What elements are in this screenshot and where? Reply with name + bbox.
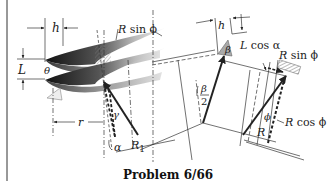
- label-R: R: [284, 116, 293, 129]
- force-vectors-left: [104, 82, 138, 137]
- phi-leader: [277, 120, 284, 123]
- label-L-cos-alpha: L cos α: [239, 39, 281, 52]
- beta-diagram: [140, 14, 304, 160]
- label-beta: β: [224, 44, 231, 55]
- label-sin-phi: sin ϕ: [287, 49, 318, 62]
- screw-thread-diagram: h L θ R sin ϕ γ r α R1: [0, 0, 335, 181]
- label-R1-main: R: [130, 139, 139, 152]
- label-R-sin-phi-left: R sin ϕ: [117, 23, 158, 36]
- label-gamma: γ: [113, 109, 119, 120]
- label-sin-phi: sin ϕ: [126, 23, 157, 36]
- label-cos-phi: cos ϕ: [293, 116, 326, 129]
- label-R: R: [278, 49, 287, 62]
- label-h-left: h: [52, 21, 60, 35]
- label-r: r: [78, 116, 84, 129]
- label-phi: ϕ: [264, 111, 271, 122]
- label-cos-alpha: cos α: [247, 39, 280, 52]
- R-cos-phi-component: [268, 76, 285, 143]
- label-L-left: L: [17, 63, 26, 77]
- label-alpha: α: [114, 141, 122, 154]
- label-h-mid: h: [218, 19, 225, 32]
- label-R-sin-phi-right: R sin ϕ: [278, 49, 319, 62]
- label-beta-half-den: 2: [201, 96, 207, 107]
- label-R: R: [117, 23, 126, 36]
- figure-caption: Problem 6/66: [123, 168, 213, 181]
- label-R-cos-phi: R cos ϕ: [284, 116, 327, 129]
- label-beta-half-num: β: [200, 83, 207, 94]
- label-R1: R1: [130, 139, 145, 154]
- label-R-right: R: [256, 126, 265, 139]
- label-theta: θ: [44, 65, 50, 76]
- label-L: L: [239, 39, 247, 52]
- diagram-canvas: h L θ R sin ϕ γ r α R1: [0, 0, 335, 181]
